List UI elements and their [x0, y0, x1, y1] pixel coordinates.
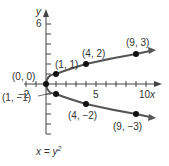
label-1-m1: (1, −1)	[2, 92, 31, 103]
parabola-chart: y x 6 −2 5 10 (0, 0) (1, 1) (4, 2) (9, 3…	[0, 0, 169, 166]
point-4-m2	[83, 101, 89, 107]
y-axis-label: y	[35, 6, 42, 17]
y-axis-arrow-icon	[43, 9, 49, 17]
point-9-m3	[133, 111, 139, 117]
point-0-0	[43, 81, 49, 87]
equation-label: x = y2	[35, 145, 61, 157]
upper-arrow-icon	[148, 47, 156, 54]
label-9-3: (9, 3)	[126, 37, 149, 48]
label-4-m2: (4, −2)	[68, 110, 97, 121]
label-1-1: (1, 1)	[55, 59, 78, 70]
y-axis	[43, 9, 51, 134]
point-9-3	[133, 51, 139, 57]
x-axis-arrow-icon	[154, 81, 162, 87]
label-9-m3: (9, −3)	[113, 121, 142, 132]
label-0-0: (0, 0)	[12, 71, 35, 82]
point-1-m1	[53, 91, 59, 97]
x-tick-5: 5	[93, 89, 99, 100]
label-4-2: (4, 2)	[82, 48, 105, 59]
point-4-2	[83, 61, 89, 67]
lower-arrow-icon	[148, 114, 156, 121]
x-tick-10: 10	[139, 89, 151, 100]
point-1-1	[53, 71, 59, 77]
y-tick-6: 6	[36, 18, 42, 29]
